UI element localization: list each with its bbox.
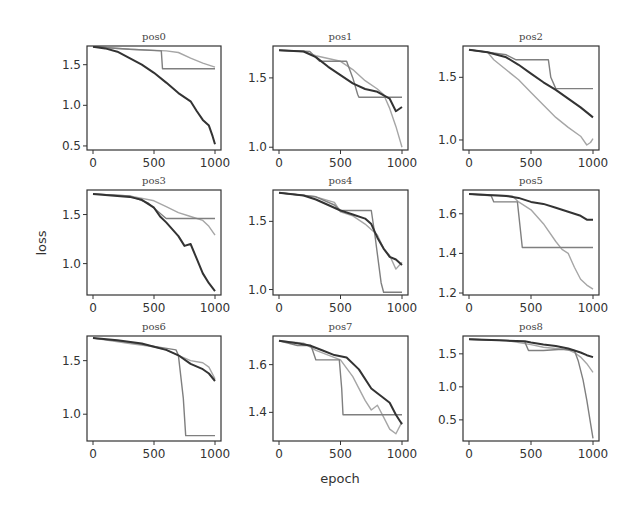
y-tick-label: 1.0 xyxy=(438,380,457,394)
line-series-mid xyxy=(469,50,593,89)
x-tick-label: 0 xyxy=(89,156,97,170)
x-tick-label: 500 xyxy=(143,301,166,315)
line-series-dark xyxy=(279,193,402,265)
line-series-light xyxy=(279,341,402,434)
x-tick-label: 500 xyxy=(329,301,352,315)
x-tick-label: 0 xyxy=(465,447,473,461)
x-tick-label: 0 xyxy=(275,156,283,170)
subplot-title: pos3 xyxy=(142,175,166,186)
line-series-mid xyxy=(279,50,402,97)
x-tick-label: 1000 xyxy=(578,301,609,315)
subplot-pos1: pos1050010001.01.5 xyxy=(248,31,417,170)
y-tick-label: 1.5 xyxy=(62,58,81,72)
y-tick-label: 1.5 xyxy=(248,71,267,85)
line-series-light xyxy=(469,50,593,145)
line-series-dark xyxy=(93,194,215,291)
x-tick-label: 500 xyxy=(329,447,352,461)
subplot-title: pos5 xyxy=(519,175,543,186)
x-tick-label: 1000 xyxy=(578,447,609,461)
line-series-dark xyxy=(469,339,593,357)
y-tick-label: 1.0 xyxy=(438,133,457,147)
subplot-pos5: pos5050010001.21.41.6 xyxy=(438,175,608,315)
line-series-dark xyxy=(469,194,593,220)
y-tick-label: 1.6 xyxy=(248,358,267,372)
x-axis-label: epoch xyxy=(320,471,360,486)
subplot-pos8: pos8050010000.51.01.5 xyxy=(438,321,608,461)
y-tick-label: 1.0 xyxy=(62,407,81,421)
x-tick-label: 0 xyxy=(89,447,97,461)
axes-frame xyxy=(87,336,221,441)
x-tick-label: 1000 xyxy=(578,156,609,170)
subplot-pos3: pos3050010001.01.5 xyxy=(62,175,230,315)
y-tick-label: 1.0 xyxy=(62,257,81,271)
x-tick-label: 1000 xyxy=(387,301,418,315)
x-tick-label: 500 xyxy=(143,156,166,170)
subplot-title: pos1 xyxy=(329,31,353,42)
subplot-title: pos4 xyxy=(329,175,353,186)
y-tick-label: 1.5 xyxy=(438,347,457,361)
subplot-title: pos7 xyxy=(329,321,353,332)
subplot-pos4: pos4050010001.01.5 xyxy=(248,175,417,315)
line-series-mid xyxy=(279,193,402,293)
x-tick-label: 1000 xyxy=(387,447,418,461)
line-series-mid xyxy=(93,338,215,436)
x-tick-label: 500 xyxy=(143,447,166,461)
x-tick-label: 1000 xyxy=(200,301,231,315)
y-axis-label: loss xyxy=(34,230,49,255)
y-tick-label: 1.0 xyxy=(248,140,267,154)
line-series-light xyxy=(93,338,215,379)
x-tick-label: 500 xyxy=(520,301,543,315)
x-tick-label: 0 xyxy=(89,301,97,315)
x-tick-label: 0 xyxy=(275,301,283,315)
y-tick-label: 1.5 xyxy=(62,208,81,222)
line-series-dark xyxy=(93,47,215,145)
subplot-title: pos6 xyxy=(142,321,166,332)
line-series-dark xyxy=(93,338,215,381)
x-tick-label: 1000 xyxy=(200,447,231,461)
x-tick-label: 500 xyxy=(520,156,543,170)
x-tick-label: 500 xyxy=(329,156,352,170)
subplot-title: pos0 xyxy=(142,31,166,42)
x-tick-label: 500 xyxy=(520,447,543,461)
line-series-mid xyxy=(469,339,593,438)
subplot-title: pos8 xyxy=(519,321,543,332)
axes-frame xyxy=(463,190,599,295)
x-tick-label: 1000 xyxy=(200,156,231,170)
subplot-title: pos2 xyxy=(519,31,543,42)
axes-frame xyxy=(273,190,408,295)
axes-frame xyxy=(87,190,221,295)
y-tick-label: 1.4 xyxy=(438,246,457,260)
subplot-grid: pos0050010000.51.01.5pos1050010001.01.5p… xyxy=(62,31,608,461)
line-series-light xyxy=(469,194,593,289)
subplot-pos7: pos7050010001.41.6 xyxy=(248,321,417,461)
subplot-pos6: pos6050010001.01.5 xyxy=(62,321,230,461)
y-tick-label: 1.5 xyxy=(438,70,457,84)
x-tick-label: 1000 xyxy=(387,156,418,170)
y-tick-label: 0.5 xyxy=(62,139,81,153)
y-tick-label: 1.0 xyxy=(62,98,81,112)
y-tick-label: 1.5 xyxy=(62,354,81,368)
line-series-mid xyxy=(93,194,215,219)
line-series-light xyxy=(279,193,402,269)
line-series-dark xyxy=(279,50,402,111)
line-series-mid xyxy=(279,341,402,415)
line-series-light xyxy=(279,50,402,147)
y-tick-label: 1.4 xyxy=(248,405,267,419)
y-tick-label: 1.5 xyxy=(248,214,267,228)
y-tick-label: 1.0 xyxy=(248,283,267,297)
y-tick-label: 1.2 xyxy=(438,286,457,300)
y-tick-label: 1.6 xyxy=(438,207,457,221)
loss-grid-figure: pos0050010000.51.01.5pos1050010001.01.5p… xyxy=(0,0,639,507)
line-series-light xyxy=(93,194,215,235)
subplot-pos0: pos0050010000.51.01.5 xyxy=(62,31,230,170)
x-tick-label: 0 xyxy=(275,447,283,461)
subplot-pos2: pos2050010001.01.5 xyxy=(438,31,608,170)
y-tick-label: 0.5 xyxy=(438,413,457,427)
x-tick-label: 0 xyxy=(465,301,473,315)
x-tick-label: 0 xyxy=(465,156,473,170)
line-series-light xyxy=(469,339,593,372)
